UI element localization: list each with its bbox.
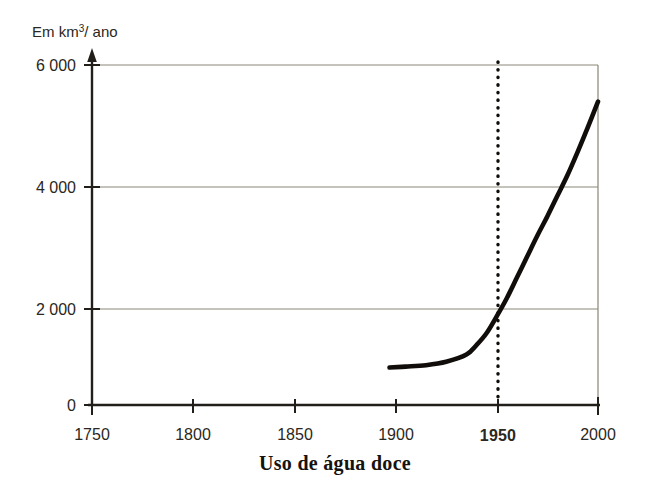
y-axis-unit-suffix: / ano	[84, 23, 117, 40]
freshwater-use-curve	[390, 102, 598, 368]
x-tick-label-1750: 1750	[74, 426, 110, 443]
gridlines	[92, 65, 598, 309]
chart-container: Em km3/ ano 6 000 4 000 2 000 0	[0, 0, 649, 496]
y-tick-label-4000: 4 000	[36, 179, 76, 196]
chart-title: Uso de água doce	[259, 452, 411, 475]
y-axis-tick-labels: 6 000 4 000 2 000 0	[36, 57, 76, 414]
y-tick-label-2000: 2 000	[36, 301, 76, 318]
y-axis-unit-prefix: Em km	[32, 23, 79, 40]
x-tick-label-1850: 1850	[277, 426, 313, 443]
y-tick-label-6000: 6 000	[36, 57, 76, 74]
x-tick-label-1950: 1950	[480, 427, 516, 444]
x-tick-label-2000: 2000	[580, 426, 616, 443]
x-tick-label-1900: 1900	[378, 426, 414, 443]
freshwater-use-line-chart: Em km3/ ano 6 000 4 000 2 000 0	[0, 0, 649, 496]
y-axis-arrowhead	[87, 48, 97, 62]
x-axis-tick-labels: 1750 1800 1850 1900 1950 2000	[74, 426, 616, 444]
y-axis-unit-label: Em km3/ ano	[32, 23, 118, 40]
y-tick-label-0: 0	[67, 397, 76, 414]
x-tick-label-1800: 1800	[175, 426, 211, 443]
vertical-value-axis	[87, 48, 97, 405]
